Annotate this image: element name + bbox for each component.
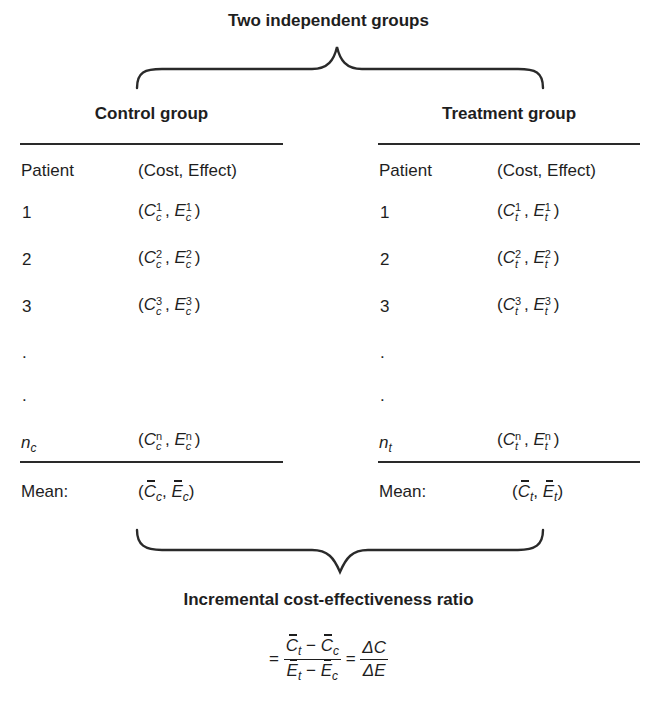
icer-formula: = Ct − Cc Et − Ec = ΔC ΔE (0, 636, 657, 683)
means-fraction: Ct − Cc Et − Ec (284, 636, 341, 683)
delta-fraction: ΔC ΔE (360, 638, 388, 681)
icer-title: Incremental cost-effectiveness ratio (0, 590, 657, 610)
equals-sign: = (346, 649, 356, 668)
equals-sign: = (269, 649, 279, 668)
